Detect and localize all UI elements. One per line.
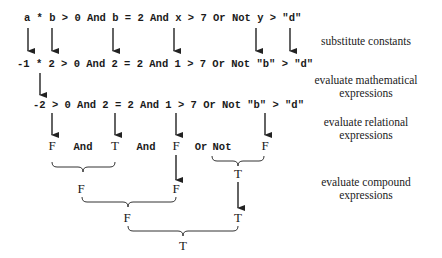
final-result: T <box>179 238 187 253</box>
and1-result: F <box>77 181 84 196</box>
passthrough-f: F <box>172 181 179 196</box>
step-label-compound-line1: evaluate compound <box>321 176 411 189</box>
operator-or: Or <box>195 141 208 153</box>
substitution-arrows <box>28 28 290 51</box>
relational-value-1: F <box>48 138 55 153</box>
step-label-math-line2: expressions <box>339 87 393 100</box>
relational-value-2: T <box>111 138 119 153</box>
brace-icon <box>82 197 176 207</box>
relational-value-3: F <box>172 138 179 153</box>
step-label-substitute: substitute constants <box>321 35 411 47</box>
brace-icon <box>52 162 115 172</box>
step-label-relational-line1: evaluate relational <box>324 116 409 128</box>
step-label-compound-line2: expressions <box>339 189 393 202</box>
original-expression: a * b > 0 And b = 2 And x > 7 Or Not y >… <box>24 12 301 24</box>
not-result: T <box>234 166 242 181</box>
operator-and-2: And <box>137 141 156 153</box>
brace-icon <box>128 226 238 236</box>
math-evaluated-expression: -2 > 0 And 2 = 2 And 1 > 7 Or Not "b" > … <box>33 99 304 111</box>
relational-value-4: F <box>261 138 268 153</box>
operator-not: Not <box>213 141 232 153</box>
substituted-expression: -1 * 2 > 0 And 2 = 2 And 1 > 7 Or Not "b… <box>17 58 313 70</box>
operator-and-1: And <box>74 141 93 153</box>
step-label-math-line1: evaluate mathematical <box>314 74 417 86</box>
brace-icon <box>212 156 264 166</box>
step-label-relational-line2: expressions <box>339 129 393 142</box>
relational-arrows <box>52 113 265 135</box>
passthrough-t: T <box>234 210 242 225</box>
and2-result: F <box>123 210 130 225</box>
evaluation-diagram: a * b > 0 And b = 2 And x > 7 Or Not y >… <box>0 0 442 258</box>
